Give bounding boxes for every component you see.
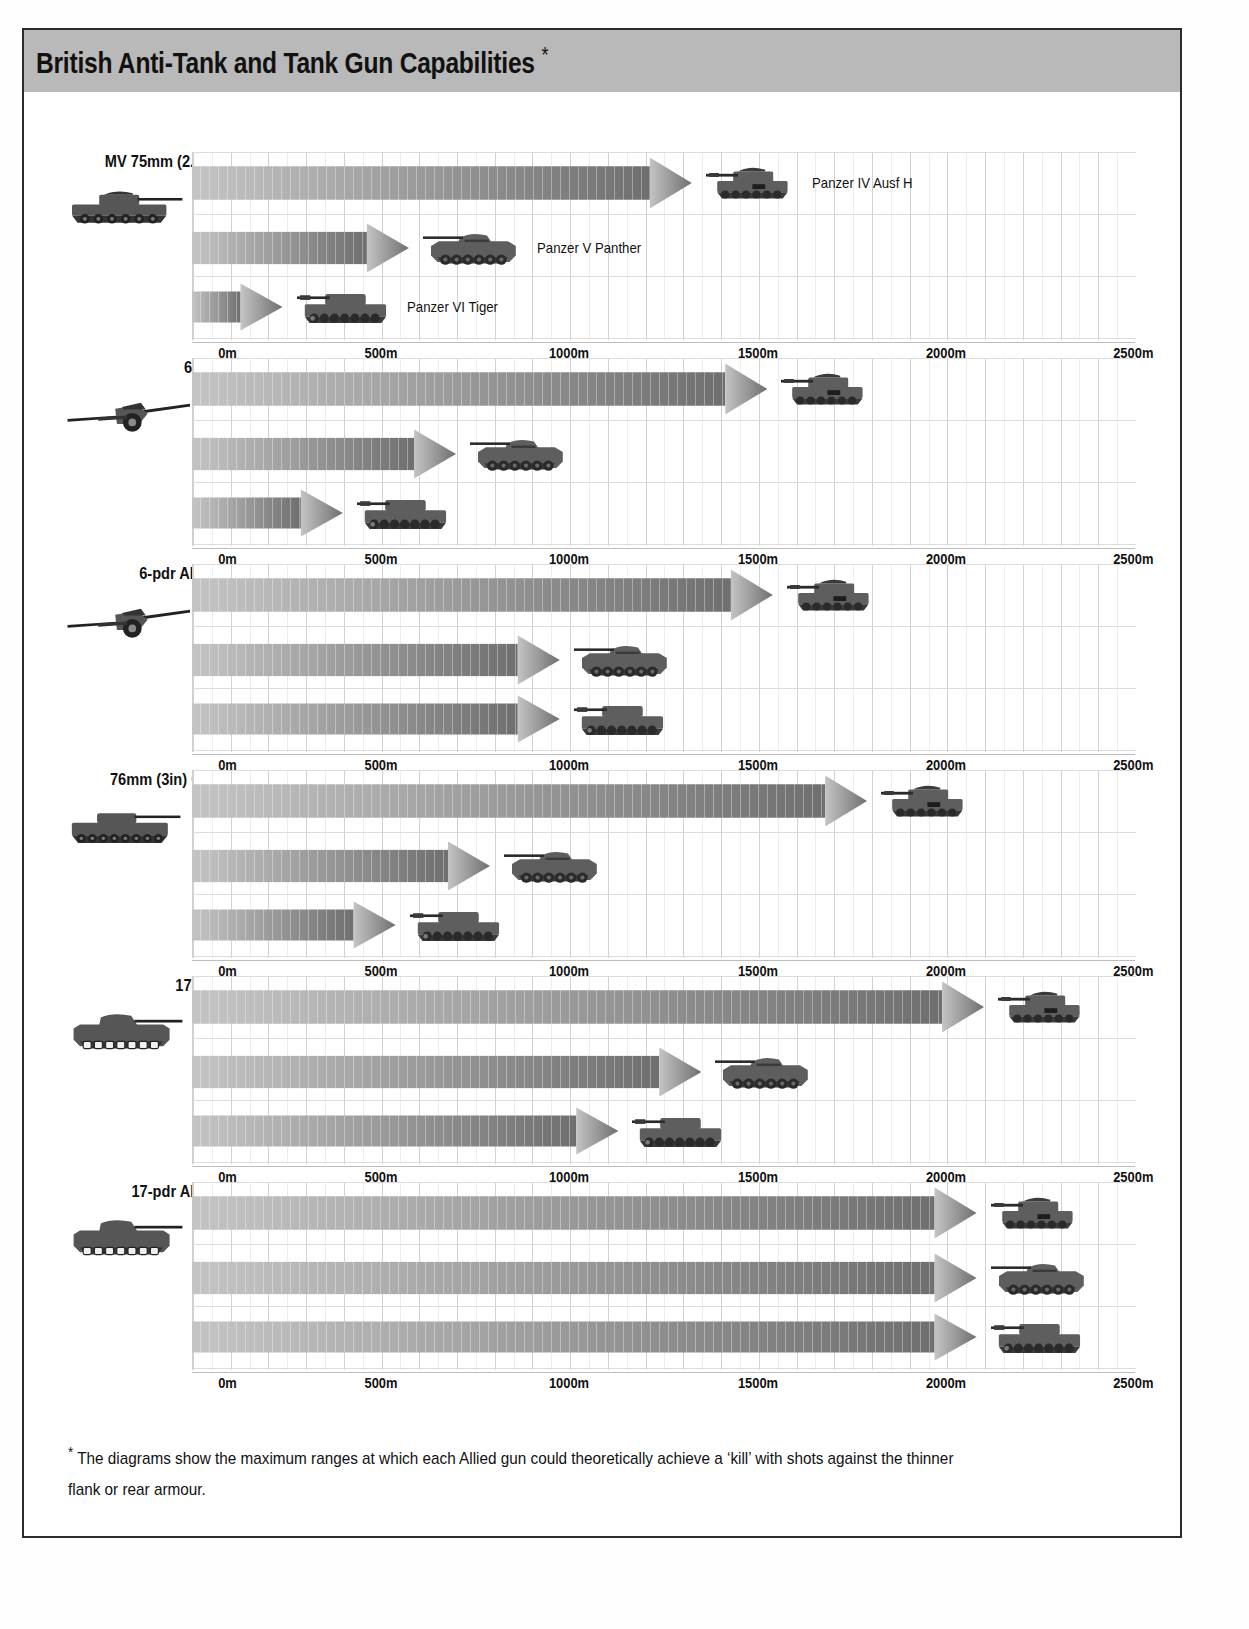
panzer4-icon	[998, 981, 1094, 1033]
range-plot	[192, 358, 1135, 546]
range-arrow	[192, 694, 560, 744]
range-plot	[192, 770, 1135, 958]
panzer6-icon	[991, 1312, 1091, 1362]
axis-tick-label: 2000m	[921, 1374, 973, 1391]
footnote: * The diagrams show the maximum ranges a…	[68, 1436, 968, 1505]
gridline-horizontal	[193, 420, 1136, 421]
page-title: British Anti-Tank and Tank Gun Capabilit…	[36, 42, 548, 80]
target-label: Panzer VI Tiger	[407, 298, 498, 315]
range-arrow	[192, 156, 692, 210]
axis-rule	[192, 548, 1135, 549]
panzer4-icon	[787, 569, 883, 621]
cromwell-tank-icon	[64, 182, 194, 238]
range-arrow	[192, 362, 767, 416]
gridline-horizontal	[193, 688, 1136, 689]
gridline-horizontal	[193, 770, 1136, 771]
range-arrow	[192, 980, 984, 1034]
antitank-gun-icon	[64, 388, 194, 444]
panzer5-icon	[715, 1046, 819, 1098]
panzer5-icon	[423, 222, 527, 274]
axis-tick-label: 0m	[218, 1374, 270, 1391]
gun-section: 17-pdr	[24, 976, 1180, 1176]
gridline-horizontal	[193, 564, 1136, 565]
panzer6-icon	[632, 1106, 732, 1156]
gridline-horizontal	[193, 1306, 1136, 1307]
range-arrow	[192, 568, 773, 622]
gun-section: 6-pdr	[24, 358, 1180, 558]
page-title-text: British Anti-Tank and Tank Gun Capabilit…	[36, 46, 535, 79]
gridline-horizontal	[193, 626, 1136, 627]
gridline-horizontal	[193, 832, 1136, 833]
gun-section: 76mm (3in) Gun	[24, 770, 1180, 970]
panzer6-icon	[574, 694, 674, 744]
title-asterisk: *	[541, 42, 548, 67]
gridline-horizontal	[193, 152, 1136, 153]
range-arrow	[192, 840, 490, 892]
range-arrow	[192, 222, 409, 274]
range-arrow	[192, 1252, 977, 1304]
panzer6-icon	[297, 282, 397, 332]
range-arrow	[192, 1106, 618, 1156]
gridline-horizontal	[193, 1100, 1136, 1101]
range-plot: Panzer IV Ausf H	[192, 152, 1135, 340]
panzer4-icon	[781, 363, 877, 415]
panzer4-icon	[706, 157, 802, 209]
gridline-horizontal	[193, 1162, 1136, 1163]
panzer5-icon	[574, 634, 678, 686]
churchill-tank-icon	[64, 800, 194, 856]
infographic-page: British Anti-Tank and Tank Gun Capabilit…	[0, 0, 1249, 1629]
panzer6-icon	[357, 488, 457, 538]
axis-rule	[192, 342, 1135, 343]
gridline-horizontal	[193, 544, 1136, 545]
range-arrow	[192, 634, 560, 686]
gridline-horizontal	[193, 956, 1136, 957]
axis-rule	[192, 1372, 1135, 1373]
footnote-marker: *	[68, 1443, 73, 1460]
axis-rule	[192, 754, 1135, 755]
antitank-gun-icon	[64, 594, 194, 650]
axis-tick-label: 2500m	[1113, 1374, 1165, 1391]
gridline-horizontal	[193, 276, 1136, 277]
panzer5-icon	[991, 1252, 1095, 1304]
axis-tick-label: 1000m	[543, 1374, 595, 1391]
range-axis: 0m500m1000m1500m2000m2500m	[192, 1374, 1182, 1400]
gridline-horizontal	[193, 1368, 1136, 1369]
range-arrow	[192, 774, 867, 828]
axis-tick-label: 1500m	[732, 1374, 784, 1391]
target-label: Panzer IV Ausf H	[812, 174, 913, 191]
gridline-horizontal	[193, 976, 1136, 977]
chart-area: MV 75mm (2.9in)	[24, 94, 1180, 1414]
gun-section: 17-pdr APDS	[24, 1182, 1180, 1382]
range-plot	[192, 564, 1135, 752]
range-arrow	[192, 282, 283, 332]
range-plot	[192, 976, 1135, 1164]
panzer4-icon	[991, 1187, 1087, 1239]
gridline-horizontal	[193, 750, 1136, 751]
range-arrow	[192, 1046, 701, 1098]
axis-rule	[192, 1166, 1135, 1167]
panzer5-icon	[470, 428, 574, 480]
target-label: Panzer V Panther	[537, 239, 641, 256]
gridline-horizontal	[193, 1038, 1136, 1039]
axis-rule	[192, 960, 1135, 961]
gridline-horizontal	[193, 1182, 1136, 1183]
gridline-horizontal	[193, 894, 1136, 895]
sherman-firefly-icon	[64, 1006, 194, 1062]
range-arrow	[192, 1186, 977, 1240]
gridline-horizontal	[193, 1244, 1136, 1245]
range-arrow	[192, 900, 396, 950]
range-arrow	[192, 488, 343, 538]
range-plot	[192, 1182, 1135, 1370]
gridline-horizontal	[193, 358, 1136, 359]
panzer6-icon	[410, 900, 510, 950]
gun-section: 6-pdr APDS	[24, 564, 1180, 764]
panzer4-icon	[881, 775, 977, 827]
sherman-firefly-icon	[64, 1212, 194, 1268]
footnote-text: The diagrams show the maximum ranges at …	[68, 1449, 953, 1499]
axis-tick-label: 500m	[355, 1374, 407, 1391]
panzer5-icon	[504, 840, 608, 892]
gridline-horizontal	[193, 338, 1136, 339]
range-arrow	[192, 428, 456, 480]
gun-section: MV 75mm (2.9in)	[24, 152, 1180, 352]
gridline-horizontal	[193, 482, 1136, 483]
